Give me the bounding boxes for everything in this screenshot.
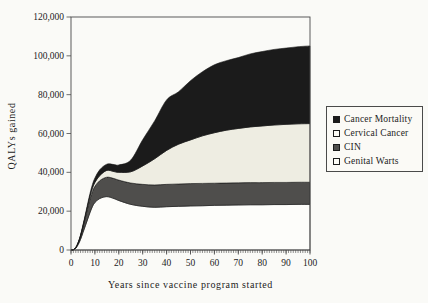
- figure: 020,00040,00060,00080,000100,000120,0000…: [0, 0, 428, 303]
- legend-item-cin: CIN: [333, 140, 418, 154]
- x-axis-title: Years since vaccine program started: [71, 279, 310, 290]
- cin-swatch-icon: [333, 144, 340, 151]
- x-tick-label: 80: [257, 258, 267, 268]
- x-tick-label: 40: [162, 258, 172, 268]
- y-tick-label: 60,000: [38, 129, 64, 139]
- cancer-mortality-swatch-icon: [333, 116, 340, 123]
- y-tick-label: 80,000: [38, 90, 64, 100]
- legend-item-genital-warts: Genital Warts: [333, 154, 418, 168]
- x-tick-label: 10: [90, 258, 100, 268]
- x-tick-label: 50: [186, 258, 196, 268]
- x-tick-label: 30: [138, 258, 148, 268]
- x-tick-label: 60: [210, 258, 220, 268]
- x-tick-label: 70: [234, 258, 244, 268]
- x-tick-label: 0: [69, 258, 74, 268]
- x-tick-label: 100: [303, 258, 318, 268]
- y-tick-label: 100,000: [33, 51, 64, 61]
- x-tick-label: 20: [114, 258, 124, 268]
- legend-label: Cervical Cancer: [344, 128, 408, 138]
- y-tick-label: 20,000: [38, 206, 64, 216]
- y-axis-title: QALYs gained: [6, 20, 20, 253]
- cervical-cancer-swatch-icon: [333, 130, 340, 137]
- y-tick-label: 120,000: [33, 12, 64, 22]
- legend-label: Genital Warts: [344, 156, 399, 166]
- genital-warts-swatch-icon: [333, 158, 340, 165]
- legend-item-cervical-cancer: Cervical Cancer: [333, 126, 418, 140]
- legend-item-cancer-mortality: Cancer Mortality: [333, 112, 418, 126]
- legend: Cancer Mortality Cervical Cancer CIN Gen…: [326, 106, 423, 172]
- y-tick-label: 40,000: [38, 167, 64, 177]
- x-tick-label: 90: [281, 258, 291, 268]
- legend-label: CIN: [344, 142, 361, 152]
- y-tick-label: 0: [59, 245, 64, 255]
- legend-label: Cancer Mortality: [344, 114, 412, 124]
